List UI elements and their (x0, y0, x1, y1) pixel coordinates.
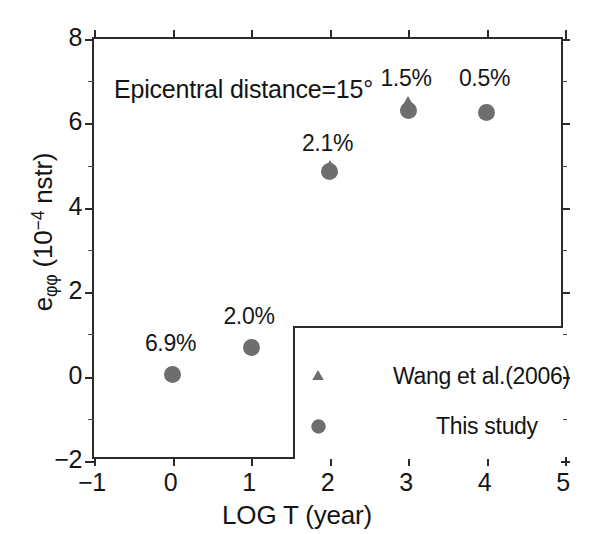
legend-item[interactable]: This study (295, 400, 563, 452)
x-axis-tick (251, 457, 253, 466)
y-axis-tick-label: 2 (69, 278, 82, 303)
y-axis-tick-label: 6 (69, 109, 82, 134)
x-axis-tick-top (251, 30, 253, 39)
y-axis-minor-tick-right (561, 250, 567, 251)
x-axis-tick (173, 457, 175, 466)
x-axis-tick (565, 457, 567, 466)
data-point-marker (243, 339, 260, 356)
y-axis-tick-label: 8 (69, 25, 82, 50)
x-axis-tick-label: 2 (321, 470, 334, 495)
x-axis-tick-label: 3 (399, 470, 412, 495)
chart-figure: −202468 −1012345 LOG T (year) eφφ (10−4 … (0, 0, 594, 534)
x-axis-tick-top (487, 30, 489, 39)
x-axis-tick-label: −1 (78, 470, 106, 495)
x-axis-tick-labels: −1012345 (92, 470, 563, 502)
x-axis-tick-top (94, 30, 96, 39)
x-axis-title: LOG T (year) (0, 500, 594, 531)
y-axis-minor-tick-right (561, 166, 567, 167)
y-axis-title-subscript: φφ (41, 274, 61, 297)
legend-marker-glyph (311, 419, 325, 433)
x-axis-tick-top (565, 30, 567, 39)
y-axis-tick (85, 461, 94, 463)
data-point-marker (164, 366, 181, 383)
y-axis-minor-tick (88, 334, 94, 335)
legend-item-label: Wang et al.(2006) (393, 363, 570, 390)
x-axis-tick-label: 0 (164, 470, 177, 495)
y-axis-title: eφφ (10−4 nstr) (28, 87, 62, 377)
data-point-marker (478, 104, 495, 121)
y-axis-tick (85, 123, 94, 125)
data-point-marker (400, 102, 417, 119)
y-axis-tick-right (561, 208, 570, 210)
x-axis-tick-top (330, 30, 332, 39)
x-axis-tick-top (173, 30, 175, 39)
y-axis-tick (85, 292, 94, 294)
x-axis-tick-label: 4 (478, 470, 491, 495)
y-axis-minor-tick (88, 166, 94, 167)
y-axis-minor-tick (88, 419, 94, 420)
y-axis-title-base: e (28, 297, 58, 311)
y-axis-tick-right (561, 39, 570, 41)
y-axis-title-open: (10 (28, 230, 58, 274)
legend-item-label: This study (436, 413, 538, 440)
y-axis-tick (85, 377, 94, 379)
y-axis-title-close: nstr) (28, 153, 58, 211)
legend-marker-circle-icon (295, 400, 341, 452)
legend: Wang et al.(2006)This study (293, 326, 563, 459)
legend-item[interactable]: Wang et al.(2006) (295, 350, 563, 402)
y-axis-tick (85, 39, 94, 41)
data-point-marker (321, 163, 338, 180)
x-axis-tick-label: 1 (242, 470, 255, 495)
x-axis-tick-top (408, 30, 410, 39)
y-axis-minor-tick-right (561, 81, 567, 82)
x-axis-tick (94, 457, 96, 466)
x-axis-tick-label: 5 (556, 470, 569, 495)
y-axis-tick-right (561, 123, 570, 125)
legend-marker-glyph (312, 370, 324, 380)
y-axis-tick-label: 0 (69, 362, 82, 387)
y-axis-tick (85, 208, 94, 210)
y-axis-minor-tick (88, 250, 94, 251)
y-axis-title-exponent: −4 (28, 211, 48, 231)
legend-marker-triangle-icon (295, 350, 341, 402)
y-axis-tick-label: 4 (69, 193, 82, 218)
y-axis-tick-right (561, 292, 570, 294)
y-axis-minor-tick (88, 81, 94, 82)
